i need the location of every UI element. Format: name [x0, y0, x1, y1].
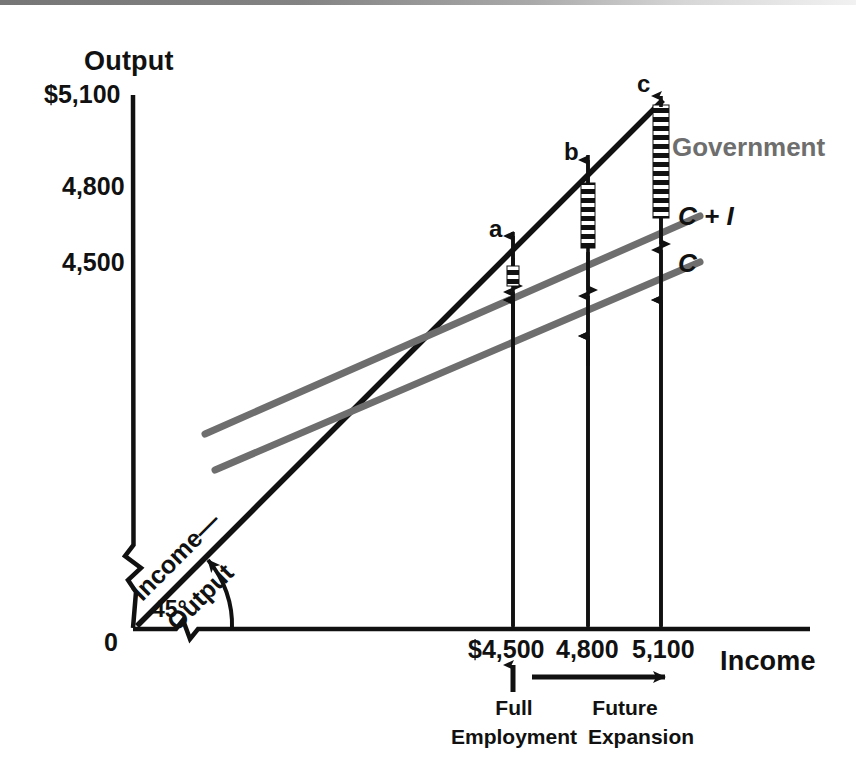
c-plus-i-label: C + I: [678, 203, 734, 229]
y-tick-4500: 4,500: [62, 250, 125, 275]
government-gap-4800: [581, 183, 595, 248]
x-tick-5100: 5,100: [632, 637, 695, 662]
y-tick-5100: $5,100: [44, 82, 120, 107]
vertical-4500: [507, 232, 519, 629]
c-line: [215, 262, 700, 470]
c-label: C: [678, 250, 697, 276]
vertical-4800: [581, 155, 595, 629]
vertical-5100: [653, 96, 669, 629]
x-tick-4800: 4,800: [556, 637, 619, 662]
keynesian-cross-figure: Output Income $5,100 4,800 4,500 0 45° $…: [0, 0, 856, 779]
future-expansion-line2: Expansion: [580, 726, 702, 747]
full-employment-line1: Full: [487, 697, 541, 718]
x-axis-title: Income: [720, 648, 816, 675]
government-gap-5100: [653, 105, 669, 218]
point-label-b: b: [564, 140, 579, 164]
full-employment-line2: Employment: [438, 726, 590, 747]
y-axis-title: Output: [84, 48, 174, 75]
origin-label: 0: [104, 630, 118, 655]
point-label-a: a: [489, 217, 502, 241]
point-label-c: c: [637, 72, 650, 96]
government-label: Government: [672, 134, 825, 160]
x-tick-4500: $4,500: [468, 637, 544, 662]
y-tick-4800: 4,800: [62, 174, 125, 199]
income-output-45-line: [137, 100, 663, 626]
government-gap-4500: [507, 266, 519, 286]
c-plus-i-line: [205, 216, 700, 434]
y-axis: [125, 95, 141, 628]
future-expansion-line1: Future: [580, 697, 670, 718]
